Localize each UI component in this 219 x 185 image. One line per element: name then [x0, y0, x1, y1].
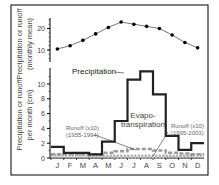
runoff-1995-annotation-line2: (1995-2003): [171, 130, 204, 136]
hydrology-chart-figure: Precipitation or runoff (monthly mean) 1…: [0, 0, 219, 185]
month-labels: JFMAMJJASOND: [51, 158, 201, 170]
temperature-line: [57, 22, 197, 49]
month-label: M: [80, 161, 86, 170]
temperature-point: [145, 25, 149, 29]
precip-tick-label: 2: [41, 140, 45, 147]
month-label: M: [105, 161, 111, 170]
runoff-1995-annotation-line1: Runoff (x10): [171, 123, 204, 129]
month-label: J: [119, 161, 123, 170]
runoff-1955-annotation-line1: Runoff (x10): [66, 125, 99, 131]
temperature-point: [170, 33, 174, 37]
temperature-point: [107, 26, 111, 30]
month-label: N: [182, 161, 187, 170]
temperature-ylabel-line2: (monthly mean): [25, 17, 34, 70]
temperature-point: [132, 22, 136, 26]
temperature-point: [158, 27, 162, 31]
month-label: J: [56, 161, 60, 170]
precip-tick-label: 8: [41, 95, 45, 102]
precip-ylabel-line2: per month (cm): [25, 89, 34, 140]
month-label: F: [68, 161, 73, 170]
precip-tick-label: 6: [41, 110, 45, 117]
month-label: S: [157, 161, 162, 170]
temperature-point: [56, 47, 60, 51]
runoff-1955-1994-line: [51, 155, 204, 156]
precipitation-step-line: [51, 71, 204, 154]
month-label: J: [132, 161, 136, 170]
temperature-ylabel-line1: Precipitation or runoff: [15, 8, 24, 80]
temperature-y-ticks: 1020: [37, 20, 50, 59]
month-label: O: [169, 161, 175, 170]
temperature-point: [183, 41, 187, 45]
temperature-point: [94, 32, 98, 36]
precipitation-annotation: Precipitation: [72, 67, 116, 76]
runoff-1955-annotation-line2: (1955-1994): [66, 132, 99, 138]
precip-tick-label: 10: [37, 81, 45, 88]
precip-ylabel-line1: Precipitation or runoff: [15, 79, 24, 151]
evapotranspiration-annotation-line2: transpiration: [121, 120, 165, 129]
month-label: A: [93, 161, 98, 170]
temperature-point: [196, 46, 200, 50]
month-label: D: [195, 161, 201, 170]
precipitation-panel: Precipitation or runoff per month (cm) 0…: [15, 67, 204, 170]
temp-tick-label: 10: [37, 47, 45, 54]
temperature-markers: [56, 20, 200, 50]
temp-tick-label: 20: [37, 25, 45, 32]
temperature-point: [81, 39, 85, 43]
temperature-point: [119, 20, 123, 24]
precip-tick-label: 0: [41, 155, 45, 162]
precip-tick-label: 4: [41, 125, 45, 132]
precip-y-ticks: 0246810: [37, 77, 50, 162]
precipitation-leader: [115, 72, 124, 73]
evapotranspiration-annotation-line1: Evapo-: [130, 111, 156, 120]
temperature-point: [68, 44, 72, 48]
month-label: A: [144, 161, 149, 170]
